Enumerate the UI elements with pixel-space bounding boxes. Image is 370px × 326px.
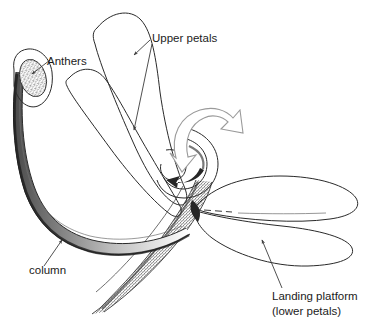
label-landing-platform-line2: (lower petals) (272, 305, 341, 317)
label-landing-platform-line1: Landing platform (272, 290, 358, 302)
diagram-canvas: Upper petals Anthers column Landing plat… (0, 0, 370, 326)
column-band (13, 72, 190, 255)
leader-column (44, 240, 62, 266)
label-anthers: Anthers (47, 55, 87, 67)
leader-upper-petals-a (134, 40, 150, 55)
label-column: column (29, 264, 66, 276)
label-upper-petals: Upper petals (152, 32, 217, 44)
botanical-diagram: Upper petals Anthers column Landing plat… (0, 0, 370, 326)
landing-platform (190, 176, 357, 266)
lower-petal-upper (196, 176, 358, 221)
leader-upper-petals-b (134, 44, 152, 130)
